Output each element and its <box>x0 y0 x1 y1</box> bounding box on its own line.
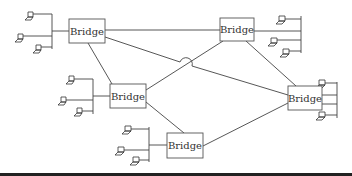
laptop-icon <box>268 38 277 46</box>
link-ml-bottom <box>146 102 184 133</box>
laptop-icon <box>74 108 82 116</box>
link-tr-mr <box>246 41 296 86</box>
lan-segment-bottom <box>115 126 167 165</box>
laptop-icon <box>66 76 74 84</box>
link-bottom-mr <box>203 103 288 146</box>
link-tr-ml <box>146 41 223 90</box>
bridge-label: Bridge <box>168 140 202 151</box>
laptop-icon <box>276 16 285 24</box>
footer-rule <box>0 173 352 176</box>
laptop-icon <box>115 147 124 155</box>
laptop-icon <box>122 126 131 134</box>
bridge-top-right[interactable]: Bridge <box>220 18 254 41</box>
bridge-top-left[interactable]: Bridge <box>69 19 105 43</box>
network-diagram: Bridge Bridge Bridge Bridge Bridge <box>0 0 352 176</box>
bridge-label: Bridge <box>70 26 104 37</box>
bridge-middle-right[interactable]: Bridge <box>288 86 322 110</box>
lan-segment-top-right <box>254 16 301 57</box>
bridge-label: Bridge <box>220 24 254 35</box>
bridge-bottom[interactable]: Bridge <box>167 133 203 158</box>
laptop-icon <box>58 97 66 105</box>
lan-segment-middle-left <box>58 76 110 116</box>
bridge-middle-left[interactable]: Bridge <box>110 84 146 108</box>
laptop-icon <box>316 112 325 120</box>
bridge-label: Bridge <box>111 91 145 102</box>
laptop-icon <box>25 12 33 20</box>
link-tl-ml <box>88 43 112 84</box>
laptop-icon <box>280 49 289 57</box>
laptop-icon <box>33 45 41 53</box>
laptop-icon <box>130 157 139 165</box>
laptop-icon <box>15 34 23 42</box>
lan-segment-top-left <box>15 12 69 53</box>
bridge-label: Bridge <box>288 93 322 104</box>
